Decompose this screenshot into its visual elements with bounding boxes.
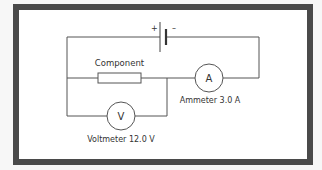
ammeter-label: Ammeter 3.0 A xyxy=(180,96,241,105)
battery-icon xyxy=(160,22,166,52)
ammeter-symbol: A xyxy=(206,73,213,84)
circuit-diagram: + – Component A Ammeter 3.0 A V Voltmete… xyxy=(0,0,322,170)
voltmeter-label: Voltmeter 12.0 V xyxy=(87,135,155,144)
battery-positive-label: + xyxy=(151,24,158,33)
battery-negative-label: – xyxy=(172,24,176,33)
voltmeter-symbol: V xyxy=(118,111,125,122)
component-label: Component xyxy=(95,58,145,68)
component-resistor-icon xyxy=(98,73,141,83)
